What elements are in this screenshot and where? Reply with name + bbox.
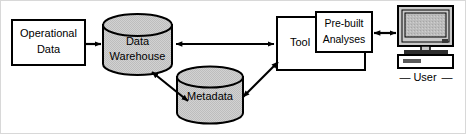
node-operational-data: Operational Data: [12, 20, 85, 65]
arrow-metadata-to-tool: [243, 62, 278, 97]
metadata-cylinder-top: [177, 67, 243, 88]
tool-label: Tool: [290, 36, 310, 48]
monitor-power-indicator: [442, 39, 448, 43]
prebuilt-analyses-label-line1: Pre-built: [324, 17, 363, 29]
node-prebuilt-analyses: Pre-built Analyses: [316, 12, 372, 52]
operational-data-label-line1: Operational: [20, 27, 77, 39]
node-user-workstation: — User —: [398, 6, 453, 83]
data-warehouse-diagram: Operational Data Data Warehouse Metadata…: [0, 0, 466, 134]
user-label-dash-right: —: [442, 71, 453, 83]
data-warehouse-label-line2: Warehouse: [110, 50, 166, 62]
data-warehouse-label-line1: Data: [126, 35, 150, 47]
prebuilt-analyses-label-line2: Analyses: [323, 33, 366, 45]
user-label-dash-left: —: [400, 71, 411, 83]
diagram-canvas: Operational Data Data Warehouse Metadata…: [0, 0, 466, 134]
monitor-screen: [405, 13, 446, 37]
operational-data-label-line2: Data: [37, 43, 61, 55]
metadata-label: Metadata: [187, 90, 234, 102]
monitor-stand-base: [404, 50, 448, 54]
user-label: User: [413, 71, 437, 83]
base-unit-slot: [403, 59, 421, 63]
node-data-warehouse: Data Warehouse: [103, 14, 172, 75]
data-warehouse-cylinder-top: [103, 14, 172, 36]
node-metadata: Metadata: [177, 67, 243, 124]
